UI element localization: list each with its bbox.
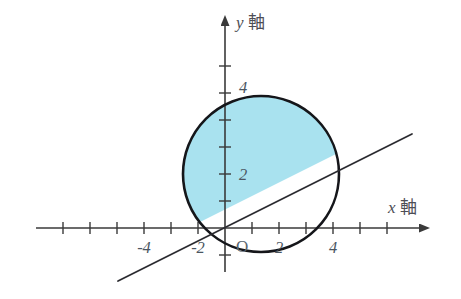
x-tick-label-neg4: -4 — [137, 238, 151, 257]
y-tick-label-4: 4 — [239, 78, 247, 97]
origin-label: O — [236, 237, 248, 256]
y-tick-label-2: 2 — [239, 165, 247, 184]
x-tick-label-4: 4 — [329, 238, 337, 257]
x-axis-label: x 軸 — [387, 198, 417, 217]
math-figure: -4 -2 2 4 2 4 O y 軸 x 軸 — [0, 0, 461, 299]
y-axis-label: y 軸 — [234, 13, 265, 32]
x-tick-label-neg2: -2 — [191, 238, 205, 257]
region-above-line — [150, 60, 400, 247]
x-axis-suffix: 軸 — [396, 198, 417, 217]
figure-container: -4 -2 2 4 2 4 O y 軸 x 軸 — [0, 0, 461, 299]
y-axis-suffix: 軸 — [244, 13, 265, 32]
shaded-region — [150, 60, 400, 247]
x-tick-label-2: 2 — [275, 238, 283, 257]
y-axis-var: y — [234, 13, 244, 32]
